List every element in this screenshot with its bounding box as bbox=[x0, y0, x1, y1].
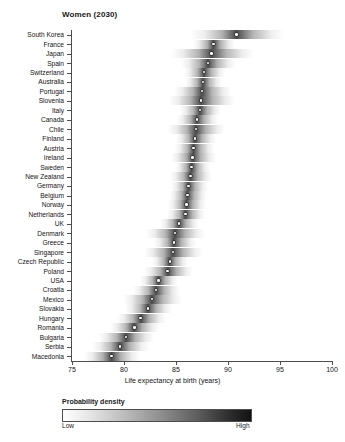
y-tick-label-spain: Spain bbox=[47, 60, 64, 67]
y-tick-label-france: France bbox=[43, 41, 64, 48]
legend-gradient-bar bbox=[62, 409, 252, 422]
y-axis-line bbox=[71, 30, 72, 361]
density-row bbox=[72, 115, 332, 124]
density-row bbox=[72, 172, 332, 181]
y-tick bbox=[67, 54, 71, 55]
legend-high-label: High bbox=[236, 422, 250, 429]
y-tick-label-sweden: Sweden bbox=[40, 164, 64, 171]
y-tick bbox=[67, 91, 71, 92]
y-tick-label-ireland: Ireland bbox=[44, 154, 64, 161]
y-tick-label-austria: Austria bbox=[43, 145, 64, 152]
y-tick-label-poland: Poland bbox=[43, 268, 64, 275]
median-marker bbox=[194, 137, 196, 139]
density-row bbox=[72, 182, 332, 191]
x-tick-label-95: 95 bbox=[276, 366, 284, 373]
density-row bbox=[72, 342, 332, 351]
y-tick-label-bulgaria: Bulgaria bbox=[40, 334, 64, 341]
x-tick-label-80: 80 bbox=[120, 366, 128, 373]
y-tick-label-romania: Romania bbox=[38, 324, 64, 331]
density-row bbox=[72, 210, 332, 219]
y-tick-label-czech-republic: Czech Republic bbox=[18, 258, 64, 265]
median-marker bbox=[173, 241, 175, 243]
y-tick bbox=[67, 318, 71, 319]
density-row bbox=[72, 295, 332, 304]
density-row bbox=[72, 153, 332, 162]
median-marker bbox=[110, 355, 112, 357]
y-tick bbox=[67, 120, 71, 121]
y-tick-label-chile: Chile bbox=[49, 126, 64, 133]
density-row bbox=[72, 276, 332, 285]
y-tick bbox=[67, 186, 71, 187]
plot-area bbox=[72, 30, 332, 361]
x-axis-line bbox=[71, 361, 333, 362]
legend: Probability density Low High bbox=[0, 398, 345, 438]
y-tick bbox=[67, 252, 71, 253]
y-tick-label-australia: Australia bbox=[38, 78, 64, 85]
y-tick bbox=[67, 347, 71, 348]
x-tick bbox=[228, 361, 229, 365]
median-marker bbox=[184, 213, 186, 215]
median-marker bbox=[147, 307, 149, 309]
y-tick bbox=[67, 205, 71, 206]
y-tick bbox=[67, 214, 71, 215]
legend-low-label: Low bbox=[62, 422, 74, 429]
y-tick-label-portugal: Portugal bbox=[39, 88, 64, 95]
y-tick bbox=[67, 271, 71, 272]
density-row bbox=[72, 267, 332, 276]
y-tick-label-south-korea: South Korea bbox=[27, 31, 64, 38]
y-tick-label-slovenia: Slovenia bbox=[39, 97, 64, 104]
median-marker bbox=[187, 185, 189, 187]
x-tick-label-85: 85 bbox=[172, 366, 180, 373]
y-tick bbox=[67, 110, 71, 111]
y-tick bbox=[67, 167, 71, 168]
y-tick-label-germany: Germany bbox=[37, 182, 64, 189]
density-row bbox=[72, 219, 332, 228]
y-tick-label-usa: USA bbox=[50, 277, 64, 284]
x-tick bbox=[280, 361, 281, 365]
x-tick bbox=[72, 361, 73, 365]
x-axis-label: Life expectancy at birth (years) bbox=[0, 377, 345, 384]
median-marker bbox=[210, 52, 212, 54]
life-expectancy-density-chart: Women (2030) South KoreaFranceJapanSpain… bbox=[0, 0, 345, 442]
y-tick-label-greece: Greece bbox=[42, 239, 64, 246]
density-row bbox=[72, 96, 332, 105]
y-tick bbox=[67, 158, 71, 159]
density-row bbox=[72, 248, 332, 257]
median-marker bbox=[169, 260, 171, 262]
density-row bbox=[72, 134, 332, 143]
y-tick-label-macedonia: Macedonia bbox=[32, 353, 64, 360]
density-row bbox=[72, 323, 332, 332]
y-tick bbox=[67, 129, 71, 130]
density-row bbox=[72, 286, 332, 295]
y-tick bbox=[67, 309, 71, 310]
density-row bbox=[72, 125, 332, 134]
median-marker bbox=[166, 270, 168, 272]
density-row bbox=[72, 78, 332, 87]
median-marker bbox=[196, 118, 198, 120]
median-marker bbox=[133, 326, 135, 328]
density-row bbox=[72, 40, 332, 49]
x-tick bbox=[124, 361, 125, 365]
density-row bbox=[72, 144, 332, 153]
median-marker bbox=[191, 156, 193, 158]
y-tick bbox=[67, 63, 71, 64]
y-tick-label-new-zealand: New Zealand bbox=[25, 173, 64, 180]
y-tick bbox=[67, 328, 71, 329]
y-tick bbox=[67, 262, 71, 263]
y-tick-label-denmark: Denmark bbox=[37, 230, 64, 237]
chart-title: Women (2030) bbox=[62, 10, 117, 19]
median-marker bbox=[212, 43, 214, 45]
y-tick bbox=[67, 337, 71, 338]
density-row bbox=[72, 163, 332, 172]
density-row bbox=[72, 304, 332, 313]
y-tick bbox=[67, 290, 71, 291]
density-row bbox=[72, 191, 332, 200]
x-tick-label-100: 100 bbox=[326, 366, 338, 373]
y-tick-label-finland: Finland bbox=[42, 135, 64, 142]
density-row bbox=[72, 333, 332, 342]
median-marker bbox=[190, 166, 192, 168]
y-tick-label-slovakia: Slovakia bbox=[39, 305, 64, 312]
y-tick-label-singapore: Singapore bbox=[34, 249, 64, 256]
density-row bbox=[72, 257, 332, 266]
y-tick-label-uk: UK bbox=[55, 220, 64, 227]
